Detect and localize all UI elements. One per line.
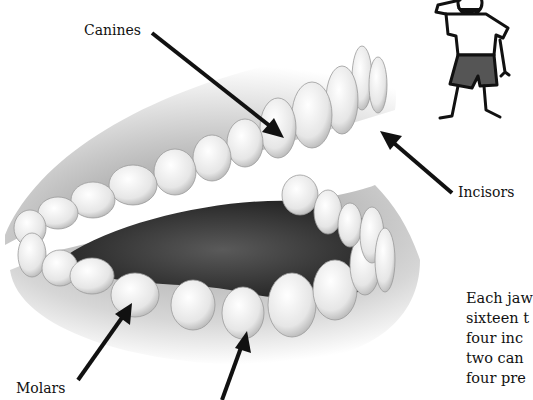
- paragraph-line: four inc: [466, 328, 533, 348]
- incisors-arrow: [388, 138, 452, 193]
- label-incisors: Incisors: [458, 184, 514, 200]
- paragraph-line: four pre: [466, 368, 533, 388]
- paragraph-line: sixteen t: [466, 308, 533, 328]
- paragraph-line: two can: [466, 348, 533, 368]
- stick-figure-icon: [436, 0, 509, 118]
- label-canines: Canines: [84, 22, 141, 38]
- label-molars: Molars: [16, 380, 65, 396]
- description-paragraph: Each jaw sixteen t four inc two can four…: [466, 288, 533, 388]
- paragraph-line: Each jaw: [466, 288, 533, 308]
